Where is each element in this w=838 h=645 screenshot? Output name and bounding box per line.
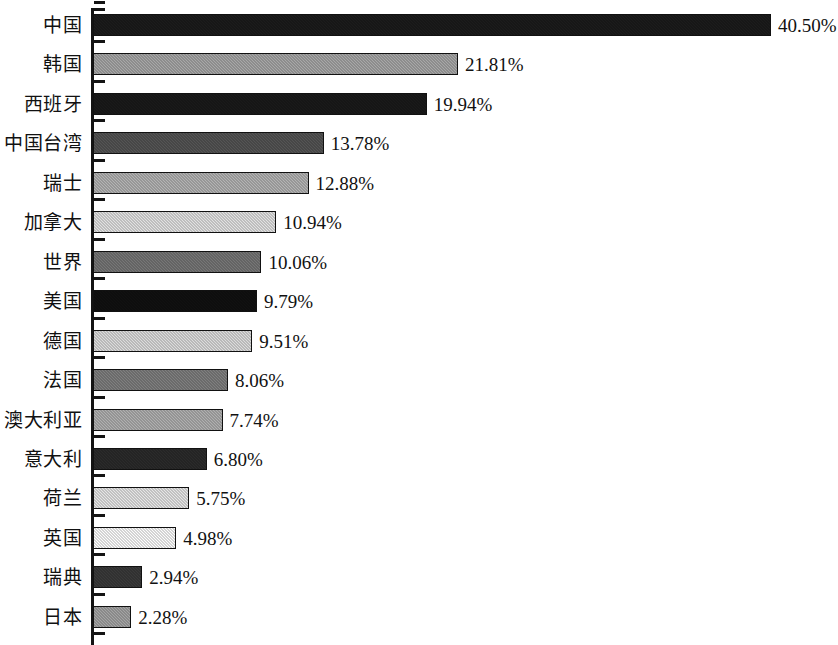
bar-value-label: 12.88% — [316, 173, 375, 195]
bar — [93, 369, 228, 391]
bar — [93, 448, 207, 470]
axis-tick-mark — [94, 119, 105, 122]
bar-value-label: 2.28% — [138, 607, 187, 629]
category-label: 瑞典 — [0, 567, 82, 589]
category-label: 瑞士 — [0, 173, 82, 195]
axis-tick-mark — [94, 553, 105, 556]
bar — [93, 566, 142, 588]
category-label: 加拿大 — [0, 212, 82, 234]
bar — [93, 172, 309, 194]
bar-value-label: 7.74% — [230, 410, 279, 432]
bar — [93, 487, 189, 509]
bar-value-label: 10.06% — [268, 252, 327, 274]
axis-tick-mark — [94, 238, 105, 241]
bar-value-label: 2.94% — [149, 567, 198, 589]
bar — [93, 93, 427, 115]
axis-tick-mark — [94, 8, 105, 11]
category-label: 意大利 — [0, 449, 82, 471]
category-label: 韩国 — [0, 54, 82, 76]
bar-value-label: 5.75% — [196, 488, 245, 510]
bar-value-label: 9.51% — [259, 331, 308, 353]
axis-tick-mark — [94, 632, 105, 635]
category-label: 德国 — [0, 331, 82, 353]
axis-tick-mark — [94, 514, 105, 517]
bar — [93, 606, 131, 628]
bar-value-label: 9.79% — [264, 291, 313, 313]
axis-tick-mark — [94, 80, 105, 83]
category-label: 荷兰 — [0, 488, 82, 510]
bar — [93, 251, 261, 273]
axis-tick-mark — [94, 593, 105, 596]
category-label: 美国 — [0, 291, 82, 313]
bar — [93, 330, 252, 352]
category-label: 日本 — [0, 607, 82, 629]
category-label: 中国 — [0, 15, 82, 37]
axis-tick-mark — [94, 317, 105, 320]
horizontal-bar-chart: 中国40.50%韩国21.81%西班牙19.94%中国台湾13.78%瑞士12.… — [0, 0, 838, 645]
bar — [93, 132, 324, 154]
axis-tick-mark — [94, 159, 105, 162]
axis-tick-mark — [94, 396, 105, 399]
category-label: 西班牙 — [0, 94, 82, 116]
category-label: 澳大利亚 — [0, 410, 82, 432]
bar — [93, 53, 458, 75]
bar-value-label: 13.78% — [331, 133, 390, 155]
category-label: 世界 — [0, 252, 82, 274]
bar-value-label: 4.98% — [183, 528, 232, 550]
axis-tick-mark — [94, 356, 105, 359]
bar — [93, 14, 771, 36]
bar-value-label: 19.94% — [434, 94, 493, 116]
category-label: 中国台湾 — [0, 133, 82, 155]
axis-tick-mark — [94, 198, 105, 201]
bar-value-label: 6.80% — [214, 449, 263, 471]
axis-tick-mark — [94, 1, 105, 4]
axis-tick-mark — [94, 435, 105, 438]
bar — [93, 211, 276, 233]
category-label: 法国 — [0, 370, 82, 392]
bar-value-label: 8.06% — [235, 370, 284, 392]
bar-value-label: 40.50% — [778, 15, 837, 37]
bar-value-label: 10.94% — [283, 212, 342, 234]
category-label: 英国 — [0, 528, 82, 550]
bar — [93, 290, 257, 312]
axis-tick-mark — [94, 40, 105, 43]
bar — [93, 409, 223, 431]
axis-tick-mark — [94, 474, 105, 477]
bar — [93, 527, 176, 549]
axis-tick-mark — [94, 277, 105, 280]
bar-value-label: 21.81% — [465, 54, 524, 76]
